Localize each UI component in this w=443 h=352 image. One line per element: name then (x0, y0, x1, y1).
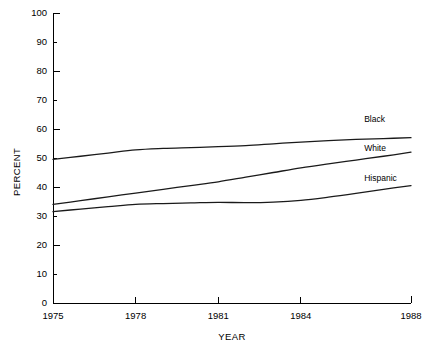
y-tick-label: 40 (36, 181, 47, 192)
y-axis-title: PERCENT (11, 148, 22, 196)
y-axis: 0102030405060708090100 (31, 7, 60, 308)
x-tick-label: 1988 (400, 310, 421, 321)
x-tick-label: 1984 (290, 310, 311, 321)
y-tick-label: 0 (42, 297, 47, 308)
series-label-hispanic: Hispanic (364, 173, 397, 183)
series-lines (53, 138, 411, 212)
y-tick-label: 90 (36, 36, 47, 47)
series-line-hispanic (53, 186, 411, 212)
series-labels: BlackWhiteHispanic (364, 114, 397, 183)
y-tick-label: 80 (36, 65, 47, 76)
series-label-white: White (364, 143, 386, 153)
chart-container: 0102030405060708090100 19751978198119841… (0, 0, 443, 352)
x-axis-title: YEAR (218, 331, 245, 342)
y-tick-label: 20 (36, 239, 47, 250)
y-tick-label: 70 (36, 94, 47, 105)
x-tick-label: 1975 (42, 310, 63, 321)
series-line-white (53, 152, 411, 204)
series-line-black (53, 138, 411, 160)
x-tick-label: 1978 (125, 310, 146, 321)
y-tick-label: 30 (36, 210, 47, 221)
series-label-black: Black (364, 114, 386, 124)
line-chart: 0102030405060708090100 19751978198119841… (0, 0, 443, 352)
y-tick-label: 50 (36, 152, 47, 163)
y-tick-label: 10 (36, 268, 47, 279)
y-tick-label: 60 (36, 123, 47, 134)
x-axis: 19751978198119841988 (42, 296, 421, 321)
y-tick-label: 100 (31, 7, 47, 18)
x-tick-label: 1981 (208, 310, 229, 321)
